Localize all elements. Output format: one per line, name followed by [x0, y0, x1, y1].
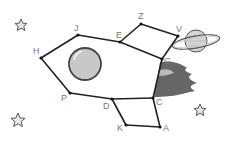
- vertex-K: [124, 123, 127, 126]
- segment-ZV: [141, 24, 178, 36]
- label-D: D: [103, 101, 110, 111]
- label-K: K: [117, 123, 123, 133]
- label-A: A: [163, 123, 169, 133]
- vertex-A: [158, 125, 161, 128]
- vertex-J: [76, 33, 79, 36]
- star-icon: [194, 104, 206, 116]
- star-icon: [15, 19, 27, 31]
- segment-DP: [70, 93, 112, 99]
- label-C: C: [156, 97, 163, 107]
- segment-PH: [41, 58, 70, 93]
- rocket-diagram: H J E Z V G C A K D P: [0, 0, 232, 142]
- rocket-outline: [41, 24, 178, 127]
- label-Z: Z: [138, 11, 144, 21]
- segment-DC: [112, 98, 153, 99]
- vertex-V: [176, 34, 179, 37]
- label-G: G: [164, 56, 171, 66]
- segment-EG: [120, 42, 162, 59]
- segment-JE: [78, 35, 120, 42]
- star-icon: [11, 113, 25, 127]
- label-E: E: [116, 30, 122, 40]
- window-icon: [69, 48, 101, 80]
- vertex-H: [39, 56, 42, 59]
- segment-AK: [126, 125, 160, 127]
- segment-KD: [112, 99, 126, 125]
- vertex-Z: [139, 22, 142, 25]
- label-P: P: [61, 93, 67, 103]
- vertex-C: [151, 96, 154, 99]
- vertex-E: [118, 40, 121, 43]
- vertex-P: [68, 91, 71, 94]
- label-V: V: [176, 24, 182, 34]
- label-J: J: [74, 23, 79, 33]
- segment-EZ: [120, 24, 141, 42]
- label-H: H: [33, 46, 40, 56]
- vertex-D: [110, 97, 113, 100]
